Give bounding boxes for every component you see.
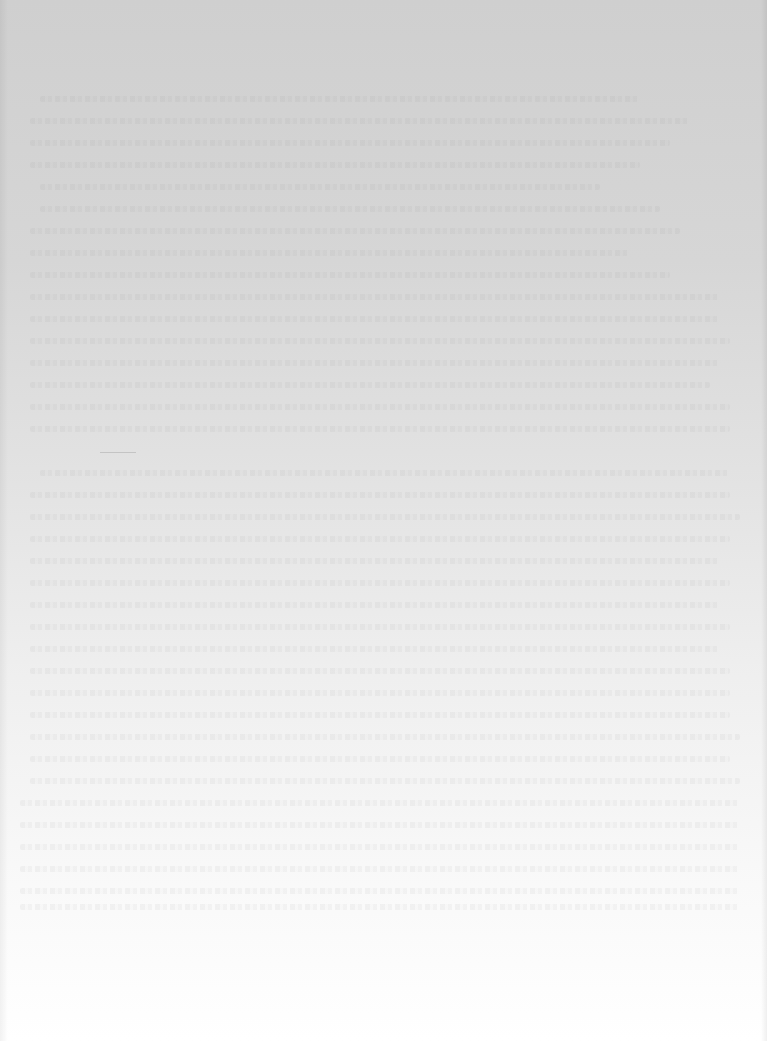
bleed-through-line bbox=[30, 558, 720, 564]
bleed-through-line bbox=[40, 184, 600, 190]
page-right-edge-shadow bbox=[761, 0, 767, 1041]
bleed-through-line bbox=[30, 668, 730, 674]
bleed-through-line bbox=[30, 580, 730, 586]
bleed-through-line bbox=[30, 250, 630, 256]
bleed-through-line bbox=[20, 888, 740, 894]
bleed-through-line bbox=[20, 866, 740, 872]
bleed-through-line bbox=[40, 96, 640, 102]
bleed-through-line bbox=[30, 426, 730, 432]
faint-dash-mark bbox=[100, 452, 136, 453]
bleed-through-line bbox=[30, 272, 670, 278]
bleed-through-line bbox=[30, 756, 730, 762]
bleed-through-line bbox=[30, 690, 730, 696]
bleed-through-line bbox=[30, 228, 680, 234]
bleed-through-line bbox=[30, 492, 730, 498]
bleed-through-line bbox=[30, 712, 730, 718]
bleed-through-line bbox=[30, 294, 720, 300]
bleed-through-line bbox=[30, 382, 710, 388]
bleed-through-line bbox=[30, 624, 730, 630]
page-left-edge-shadow bbox=[0, 0, 8, 1041]
bleed-through-line bbox=[30, 316, 720, 322]
bleed-through-line bbox=[30, 514, 740, 520]
bleed-through-line bbox=[30, 778, 740, 784]
bleed-through-line bbox=[30, 162, 640, 168]
bleed-through-line bbox=[30, 734, 740, 740]
bleed-through-line bbox=[30, 140, 670, 146]
bleed-through-line bbox=[30, 602, 720, 608]
bleed-through-line bbox=[20, 822, 740, 828]
bleed-through-line bbox=[20, 800, 740, 806]
bleed-through-line bbox=[40, 206, 660, 212]
scanned-document-page bbox=[0, 0, 767, 1041]
bleed-through-line bbox=[40, 470, 730, 476]
bleed-through-line bbox=[30, 118, 690, 124]
bleed-through-line bbox=[30, 360, 720, 366]
bleed-through-line bbox=[30, 646, 720, 652]
bleed-through-line bbox=[20, 844, 740, 850]
bleed-through-line bbox=[20, 904, 740, 910]
bleed-through-line bbox=[30, 536, 730, 542]
bleed-through-line bbox=[30, 338, 730, 344]
bleed-through-line bbox=[30, 404, 730, 410]
